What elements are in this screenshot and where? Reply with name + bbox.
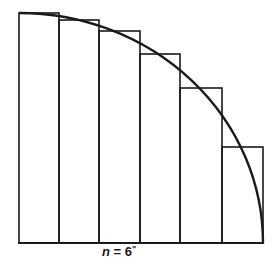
caption-mark: " [132,244,136,254]
caption-equals: = [110,244,125,259]
rectangle-4 [140,54,180,243]
riemann-diagram [0,0,277,271]
caption-variable: n [102,244,110,259]
quarter-circle-curve [19,13,263,243]
rectangles-group [19,13,263,243]
caption: n = 6" [102,244,172,259]
caption-value: 6 [125,244,132,259]
rectangle-5 [180,88,222,243]
rectangle-2 [59,20,99,243]
rectangle-3 [99,31,140,243]
rectangle-1 [19,13,59,243]
